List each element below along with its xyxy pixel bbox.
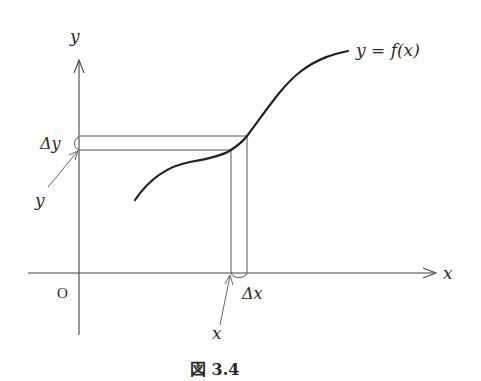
x-axis-label: x [443, 263, 453, 283]
delta-x-band [231, 136, 247, 278]
curve-label: y = f(x) [355, 40, 420, 60]
delta-y-band [75, 136, 248, 150]
point-x-label: x [212, 323, 222, 343]
figure-caption: 図 3.4 [190, 360, 239, 379]
derivative-diagram: y x O y = f(x) Δy y Δx x 図 3.4 [0, 0, 481, 381]
y-pointer-arrow [48, 152, 77, 187]
delta-y-brace-icon [75, 137, 80, 150]
delta-y-label: Δy [39, 134, 62, 153]
delta-x-label: Δx [241, 284, 263, 303]
axes [28, 60, 436, 335]
point-y-label: y [34, 190, 45, 210]
delta-x-brace-icon [231, 273, 247, 278]
y-axis-label: y [69, 26, 80, 46]
pointer-arrows [48, 151, 233, 325]
origin-label: O [57, 285, 68, 301]
function-curve [135, 51, 348, 200]
